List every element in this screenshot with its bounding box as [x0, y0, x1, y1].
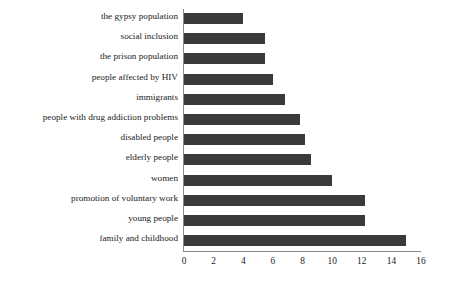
bar	[184, 33, 265, 44]
bar-category-label: young people	[0, 212, 178, 224]
bar	[184, 215, 365, 226]
bar-row: family and childhood	[0, 231, 449, 252]
bar	[184, 114, 300, 125]
bar-row: women	[0, 171, 449, 192]
x-axis-tick-label: 8	[288, 254, 318, 268]
bar-category-label: elderly people	[0, 151, 178, 163]
bar	[184, 154, 311, 165]
bar-chart: the gypsy populationsocial inclusionthe …	[0, 0, 449, 283]
bar-row: people with drug addiction problems	[0, 110, 449, 131]
bar	[184, 13, 243, 24]
bar-row: the prison population	[0, 49, 449, 70]
bar-row: people affected by HIV	[0, 70, 449, 91]
bar-row: immigrants	[0, 90, 449, 111]
bar	[184, 94, 285, 105]
bar-category-label: women	[0, 172, 178, 184]
x-axis-tick-label: 2	[199, 254, 229, 268]
bar-row: young people	[0, 211, 449, 232]
bar	[184, 53, 265, 64]
x-axis-tick-labels: 0246810121416	[0, 254, 449, 270]
bar-category-label: the prison population	[0, 50, 178, 62]
x-axis-tick-label: 12	[347, 254, 377, 268]
bar	[184, 74, 273, 85]
bar-category-label: family and childhood	[0, 232, 178, 244]
bar	[184, 235, 406, 246]
bar-row: the gypsy population	[0, 9, 449, 30]
bar-row: promotion of voluntary work	[0, 191, 449, 212]
bar-rows: the gypsy populationsocial inclusionthe …	[0, 0, 449, 242]
bar-category-label: social inclusion	[0, 30, 178, 42]
x-axis-tick-label: 14	[376, 254, 406, 268]
bar-row: social inclusion	[0, 29, 449, 50]
bar-category-label: people with drug addiction problems	[0, 111, 178, 123]
x-axis-tick-label: 6	[258, 254, 288, 268]
bar-row: elderly people	[0, 150, 449, 171]
bar-category-label: disabled people	[0, 131, 178, 143]
bar-row: disabled people	[0, 130, 449, 151]
bar-category-label: immigrants	[0, 91, 178, 103]
x-axis-tick-label: 16	[406, 254, 436, 268]
bar-category-label: promotion of voluntary work	[0, 192, 178, 204]
bar	[184, 175, 332, 186]
x-axis-tick-label: 4	[228, 254, 258, 268]
bar	[184, 134, 305, 145]
bar	[184, 195, 365, 206]
bar-category-label: people affected by HIV	[0, 71, 178, 83]
x-axis-tick-label: 0	[169, 254, 199, 268]
x-axis-tick-label: 10	[317, 254, 347, 268]
bar-category-label: the gypsy population	[0, 10, 178, 22]
